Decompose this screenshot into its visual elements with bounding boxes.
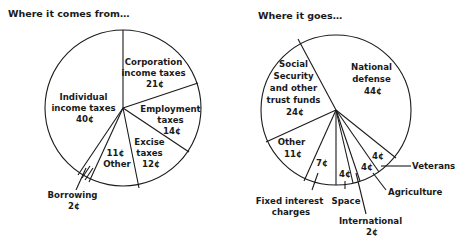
label-space: Space [331, 196, 360, 206]
value-agriculture: 4¢ [361, 162, 373, 172]
value-space: 4¢ [339, 169, 351, 179]
pie-charts: Corporation income taxes 21¢ Employment … [0, 0, 464, 243]
label-individual: Individual income taxes 40¢ [51, 92, 118, 124]
label-borrowing: Borrowing 2¢ [48, 190, 101, 211]
label-defense: National defense 44¢ [351, 62, 395, 96]
label-excise: Excise taxes 12¢ [134, 137, 167, 169]
label-corporation: Corporation income taxes 21¢ [121, 57, 188, 89]
pie-sources: Corporation income taxes 21¢ Employment … [45, 30, 204, 211]
label-social-security: Social Security and other trust funds 24… [267, 59, 324, 117]
label-veterans: Veterans [412, 161, 455, 171]
label-other-sources: 11¢ Other [103, 148, 131, 169]
pie-uses: National defense 44¢ Social Security and… [256, 35, 456, 237]
label-interest: Fixed interest charges [256, 196, 327, 217]
label-other-uses: Other 11¢ [278, 137, 309, 159]
value-interest: 7¢ [316, 158, 328, 168]
value-veterans: 4¢ [372, 151, 384, 161]
label-agriculture: Agriculture [388, 187, 443, 197]
label-employment: Employment taxes 14¢ [140, 104, 203, 136]
label-international: International 2¢ [339, 216, 405, 237]
